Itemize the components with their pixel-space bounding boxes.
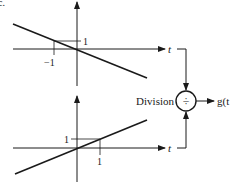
- divide-icon: ÷: [183, 94, 190, 108]
- top-function-line: [13, 24, 147, 78]
- top-input-wire: [177, 49, 186, 90]
- top-x-tick-label: −1: [44, 57, 55, 68]
- bottom-x-tick-label: 1: [97, 156, 102, 167]
- bottom-graph: t 1 1: [13, 96, 172, 182]
- bottom-y-tick-label: 1: [64, 134, 69, 145]
- operator-label: Division: [136, 95, 174, 107]
- top-y-tick-label: 1: [83, 36, 88, 47]
- division-operator: ÷ Division: [136, 91, 196, 111]
- bottom-function-line: [15, 120, 147, 174]
- bottom-t-axis-label: t: [168, 142, 172, 154]
- figure-label: c.: [0, 0, 5, 8]
- output-label: g(t: [217, 95, 229, 108]
- bottom-input-wire: [177, 112, 186, 148]
- division-block-diagram: c. t 1 −1 t 1 1 ÷ Division g(t: [0, 0, 232, 189]
- top-t-axis-label: t: [168, 43, 172, 55]
- top-graph: t 1 −1: [13, 2, 172, 86]
